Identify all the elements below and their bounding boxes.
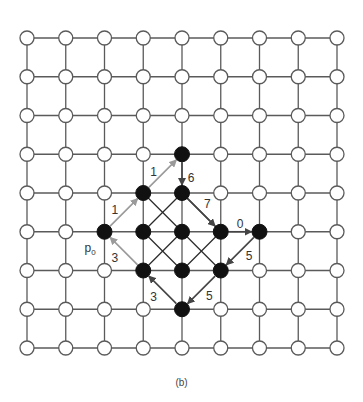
- white-node: [253, 31, 267, 45]
- white-node: [330, 341, 344, 355]
- white-node: [20, 264, 34, 278]
- arrow-weight-label: 3: [112, 251, 119, 265]
- white-node: [59, 70, 73, 84]
- white-node: [20, 147, 34, 161]
- figure-caption: (b): [0, 377, 363, 388]
- white-node: [20, 302, 34, 316]
- white-node: [330, 147, 344, 161]
- white-node: [175, 70, 189, 84]
- arrow-weight-label: 1: [150, 165, 157, 179]
- black-node: [175, 224, 190, 239]
- white-node: [20, 109, 34, 123]
- start-point-label: p0: [85, 241, 97, 257]
- white-node: [98, 186, 112, 200]
- white-node: [330, 302, 344, 316]
- white-node: [175, 31, 189, 45]
- white-node: [214, 31, 228, 45]
- white-node: [59, 302, 73, 316]
- white-node: [136, 302, 150, 316]
- black-node: [213, 263, 228, 278]
- white-node: [20, 70, 34, 84]
- white-node: [214, 341, 228, 355]
- white-node: [20, 341, 34, 355]
- white-node: [59, 109, 73, 123]
- white-node: [98, 109, 112, 123]
- white-node: [136, 341, 150, 355]
- white-node: [59, 264, 73, 278]
- white-node: [98, 341, 112, 355]
- white-node: [253, 147, 267, 161]
- white-node: [214, 109, 228, 123]
- white-node: [253, 264, 267, 278]
- lattice-nodes: [20, 31, 344, 355]
- white-node: [253, 341, 267, 355]
- white-node: [330, 70, 344, 84]
- white-node: [214, 147, 228, 161]
- white-node: [214, 186, 228, 200]
- white-node: [136, 109, 150, 123]
- arrow-weight-label: 3: [150, 290, 157, 304]
- black-node: [252, 224, 267, 239]
- arrow-weight-label: 6: [188, 171, 195, 185]
- white-node: [253, 109, 267, 123]
- white-node: [253, 186, 267, 200]
- white-node: [291, 31, 305, 45]
- white-node: [214, 302, 228, 316]
- white-node: [330, 186, 344, 200]
- white-node: [291, 341, 305, 355]
- white-node: [20, 186, 34, 200]
- arrow-weight-label: 0: [237, 217, 244, 231]
- white-node: [136, 147, 150, 161]
- white-node: [330, 225, 344, 239]
- black-node: [97, 224, 112, 239]
- arrow-weight-label: 7: [204, 197, 211, 211]
- arrow-weight-label: 1: [112, 203, 119, 217]
- white-node: [136, 70, 150, 84]
- white-node: [98, 147, 112, 161]
- white-node: [59, 147, 73, 161]
- arrow-weight-label: 5: [206, 289, 213, 303]
- white-node: [330, 264, 344, 278]
- black-node: [136, 224, 151, 239]
- black-node: [175, 186, 190, 201]
- white-node: [98, 264, 112, 278]
- white-node: [98, 302, 112, 316]
- white-node: [291, 302, 305, 316]
- white-node: [98, 70, 112, 84]
- white-node: [136, 31, 150, 45]
- white-node: [291, 70, 305, 84]
- white-node: [59, 341, 73, 355]
- white-node: [253, 70, 267, 84]
- white-node: [330, 109, 344, 123]
- white-node: [291, 225, 305, 239]
- white-node: [214, 70, 228, 84]
- white-node: [175, 109, 189, 123]
- black-node: [175, 263, 190, 278]
- white-node: [175, 341, 189, 355]
- white-node: [291, 264, 305, 278]
- white-node: [59, 186, 73, 200]
- white-node: [291, 186, 305, 200]
- white-node: [20, 225, 34, 239]
- white-node: [291, 109, 305, 123]
- black-node: [213, 224, 228, 239]
- black-node: [136, 263, 151, 278]
- white-node: [59, 225, 73, 239]
- black-node: [136, 186, 151, 201]
- white-node: [330, 31, 344, 45]
- white-node: [291, 147, 305, 161]
- white-node: [253, 302, 267, 316]
- white-node: [20, 31, 34, 45]
- path-arrow: [188, 199, 215, 226]
- arrow-weight-label: 5: [246, 249, 253, 263]
- black-node: [175, 147, 190, 162]
- black-node: [175, 302, 190, 317]
- white-node: [59, 31, 73, 45]
- white-node: [98, 31, 112, 45]
- lattice-diagram: 116705533p0: [0, 0, 363, 370]
